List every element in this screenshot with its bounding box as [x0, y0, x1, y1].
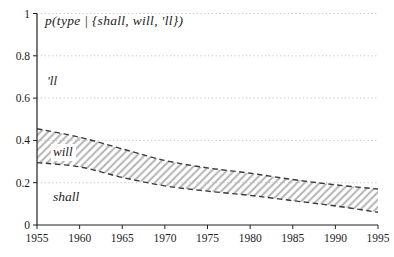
- region-label-ll: 'll: [47, 73, 57, 89]
- x-tick-label: 1975: [196, 232, 219, 244]
- x-tick-label: 1980: [239, 232, 262, 244]
- band-chart-svg: 00.20.40.60.8119551960196519701975198019…: [0, 0, 394, 257]
- y-tick-label: 0.4: [16, 134, 31, 146]
- x-tick-label: 1965: [111, 232, 134, 244]
- probability-band-chart: 00.20.40.60.8119551960196519701975198019…: [0, 0, 394, 257]
- hatched-band: [37, 129, 378, 213]
- y-tick-label: 0: [24, 219, 30, 231]
- y-tick-label: 1: [24, 8, 30, 20]
- x-tick-label: 1995: [367, 232, 390, 244]
- y-tick-label: 0.2: [16, 177, 31, 189]
- region-label-will: will: [51, 144, 76, 161]
- x-tick-label: 1970: [153, 232, 176, 244]
- x-tick-label: 1960: [68, 232, 91, 244]
- y-tick-label: 0.8: [16, 50, 31, 62]
- region-label-shall: shall: [53, 189, 79, 205]
- y-tick-label: 0.6: [16, 92, 31, 104]
- x-tick-label: 1985: [281, 232, 304, 244]
- x-tick-label: 1955: [26, 232, 49, 244]
- x-tick-label: 1990: [324, 232, 347, 244]
- chart-title: p(type | {shall, will, 'll}): [45, 13, 183, 29]
